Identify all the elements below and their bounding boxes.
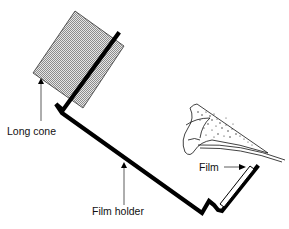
diagram-canvas — [0, 0, 289, 229]
long-cone-label: Long cone — [7, 126, 56, 137]
film-holder-arrow — [121, 162, 127, 205]
film-arrow — [224, 164, 246, 170]
long-cone — [33, 11, 124, 108]
film-holder-label: Film holder — [92, 206, 144, 217]
tooth — [183, 104, 285, 162]
long-cone-arrow — [38, 78, 44, 121]
film — [220, 166, 254, 207]
film-label: Film — [199, 162, 219, 173]
